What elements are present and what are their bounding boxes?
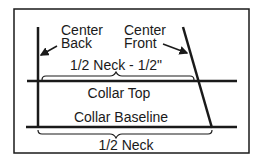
center-back-label-line2: Back <box>61 35 93 51</box>
center-front-line <box>183 27 212 128</box>
collar-baseline-label: Collar Baseline <box>74 109 168 125</box>
collar-draft-diagram: Center Back Center Front 1/2 Neck - 1/2"… <box>0 0 263 161</box>
top-measure-label: 1/2 Neck - 1/2" <box>70 57 162 73</box>
center-front-arrow <box>163 44 187 53</box>
bottom-measure-label: 1/2 Neck <box>98 137 154 153</box>
center-front-label-line2: Front <box>124 35 157 51</box>
collar-top-label: Collar Top <box>88 85 151 101</box>
top-measure-brace <box>42 72 194 80</box>
center-back-arrow <box>41 46 57 55</box>
